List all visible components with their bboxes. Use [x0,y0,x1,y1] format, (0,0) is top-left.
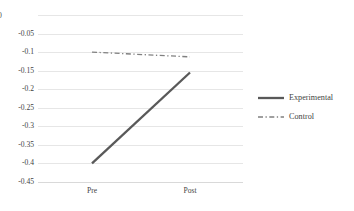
y-tick-label: -0.45 [0,178,34,186]
x-axis-line [38,182,243,183]
legend-label-experimental: Experimental [284,93,333,102]
x-tick-label-post: Post [183,186,196,195]
y-tick-label: -0.1 [0,48,34,56]
gridline [38,34,243,35]
gridline [38,71,243,72]
legend-swatch-solid-icon [258,93,284,103]
gridline [38,163,243,164]
gridline [38,15,243,16]
y-tick-label: 0 [0,11,17,20]
y-tick-label: -0.05 [0,30,34,38]
gridline [38,145,243,146]
line-chart: 0 -0.05 -0.1 -0.15 -0.2 -0.25 -0.3 -0.35… [0,0,354,211]
legend: Experimental Control [258,88,354,126]
y-tick-label: -0.4 [0,159,34,167]
y-tick-label: -0.25 [0,104,34,112]
plot-area [38,15,243,182]
legend-item-control: Control [258,107,354,126]
y-tick-label: -0.15 [0,67,34,75]
legend-swatch-dashdot-icon [258,112,284,122]
y-tick-label: -0.3 [0,122,34,130]
x-tick-label-pre: Pre [87,186,97,195]
gridline [38,108,243,109]
gridline [38,52,243,53]
gridline [38,126,243,127]
y-tick-label: -0.2 [0,85,34,93]
legend-item-experimental: Experimental [258,88,354,107]
y-tick-label: -0.35 [0,141,34,149]
gridline [38,89,243,90]
legend-label-control: Control [284,112,314,121]
